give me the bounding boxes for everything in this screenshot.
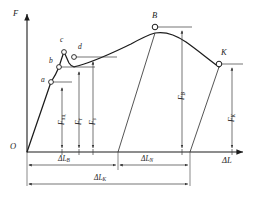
point-label-K: K [221, 48, 227, 57]
tensile-curve-group [27, 32, 219, 152]
force-sub-B: B [180, 92, 186, 95]
force-label-F-K: FK [228, 114, 237, 122]
force-sub-pc: пц [60, 115, 66, 121]
force-base-pc: F [57, 120, 66, 125]
point-marker-d [72, 55, 77, 60]
point-marker-c [62, 50, 67, 55]
dim-base-dL-K: ΔL [94, 173, 103, 182]
dim-sub-dL-K: K [103, 176, 107, 182]
force-label-F-t: Fт [75, 118, 84, 125]
point-label-a: a [41, 76, 45, 84]
force-sub-t: т [77, 118, 83, 120]
point-marker-b [57, 65, 62, 70]
point-label-B: B [152, 11, 157, 20]
force-dimension-arrows [62, 31, 232, 148]
point-marker-a [49, 80, 54, 85]
elongation-dimension-bars [29, 165, 188, 184]
point-marker-B [152, 24, 158, 30]
x-axis-label: ΔL [222, 156, 232, 165]
dim-sub-dL-B: B [67, 157, 70, 163]
dim-sub-dL-N: N [150, 157, 154, 163]
force-sub-z: з [91, 118, 97, 120]
force-base-B: F [177, 95, 186, 100]
point-marker-K [216, 61, 222, 67]
unloading-line-B [118, 33, 155, 152]
dimension-label-dL-B: ΔLB [58, 155, 70, 164]
tensile-curve [27, 32, 219, 152]
force-sub-K: K [230, 114, 236, 118]
curve-point-markers [49, 24, 222, 84]
force-label-F-z: Fз [89, 118, 98, 125]
y-axis-label: F [13, 9, 18, 18]
extension-lines-group [27, 152, 190, 186]
force-base-z: F [88, 120, 97, 125]
origin-label: O [10, 142, 16, 151]
unloading-line-K [190, 67, 219, 152]
dim-base-dL-B: ΔL [58, 154, 67, 163]
force-base-K: F [227, 117, 236, 122]
force-label-F-pc: Fпц [58, 115, 67, 125]
unloading-lines-group [118, 33, 219, 152]
diagram-canvas [0, 0, 253, 198]
force-label-F-B: FB [178, 92, 187, 100]
dimension-label-dL-N: ΔLN [141, 155, 153, 164]
point-label-b: b [49, 57, 53, 65]
force-base-t: F [74, 120, 83, 125]
tensile-diagram-figure: F O ΔL a b c d B K Fпц Fт Fз FB FK ΔLB Δ… [0, 0, 253, 198]
force-leader-lines [51, 27, 243, 82]
dim-base-dL-N: ΔL [141, 154, 150, 163]
dimension-label-dL-K: ΔLK [94, 174, 106, 183]
point-label-c: c [60, 36, 63, 44]
point-label-d: d [78, 43, 82, 51]
